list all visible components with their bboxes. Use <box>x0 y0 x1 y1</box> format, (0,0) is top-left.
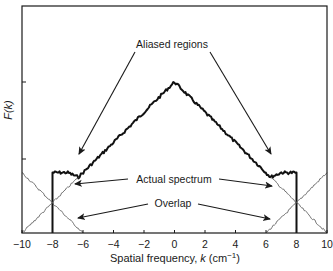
x-tick-label: −8 <box>47 238 59 250</box>
actual-spectrum-line <box>53 82 297 233</box>
x-tick-label: 2 <box>202 238 208 250</box>
x-tick-label: 0 <box>172 238 178 250</box>
alias-line <box>22 177 78 233</box>
spectrum-chart: −10−8−6−4−20246810 F(k) Spatial frequenc… <box>0 0 333 271</box>
svg-text:Overlap: Overlap <box>155 197 192 209</box>
x-tick-label: 10 <box>321 238 333 250</box>
svg-text:Actual spectrum: Actual spectrum <box>136 173 212 185</box>
x-tick-label: 6 <box>263 238 269 250</box>
x-axis-label: Spatial frequency, k (cm−1) <box>110 251 240 264</box>
x-tick-label: −6 <box>77 238 89 250</box>
alias-line <box>271 178 327 233</box>
x-tick-label: 4 <box>233 238 239 250</box>
series-layer <box>22 82 327 233</box>
annotation-actual-spectrum: Actual spectrum <box>75 173 272 186</box>
x-tick-label: 8 <box>294 238 300 250</box>
annotation-aliased-regions: Aliased regions <box>79 38 271 154</box>
svg-text:Aliased regions: Aliased regions <box>136 38 208 50</box>
x-tick-label: −10 <box>13 238 31 250</box>
x-tick-label: −2 <box>138 238 150 250</box>
x-tick-label: −4 <box>108 238 120 250</box>
y-axis-label: F(k) <box>2 100 14 120</box>
annotation-overlap: Overlap <box>78 197 270 219</box>
